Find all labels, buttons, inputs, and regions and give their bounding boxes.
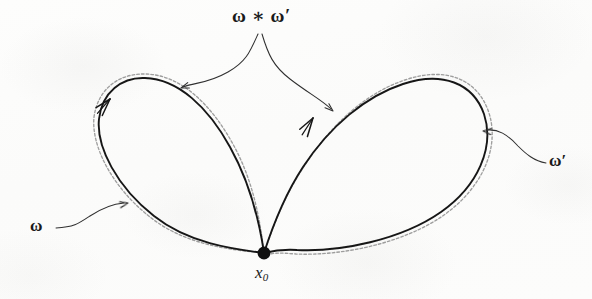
product-pointer-right-line xyxy=(262,34,331,109)
ink-loops xyxy=(99,78,488,253)
right-loop-label: ω′ xyxy=(549,152,566,169)
basepoint-dot xyxy=(258,247,271,260)
right-loop-curve xyxy=(264,79,487,253)
basepoint-label: x0 xyxy=(255,264,268,283)
pointer-arrowheads xyxy=(120,83,492,208)
omega-pointer-line xyxy=(56,203,124,228)
omega-prime-pointer-line xyxy=(487,130,546,163)
basepoint-symbol: x xyxy=(255,263,263,282)
right-loop-dashed-guide xyxy=(264,74,492,256)
dashed-guide-curves xyxy=(94,74,492,256)
product-label: ω ∗ ω′ xyxy=(232,6,291,25)
omega-pointer-arrow-icon xyxy=(120,200,129,207)
right-loop-direction-arrow-icon xyxy=(298,116,319,138)
figure-canvas: ω ∗ ω′ ω ω′ x0 xyxy=(0,0,592,299)
left-loop-curve xyxy=(99,78,264,253)
basepoint-subscript: 0 xyxy=(263,271,269,283)
loop-concatenation-diagram xyxy=(0,0,592,299)
direction-arrowheads xyxy=(94,96,319,138)
product-pointer-left-line xyxy=(183,34,258,87)
left-loop-label: ω xyxy=(30,217,42,234)
